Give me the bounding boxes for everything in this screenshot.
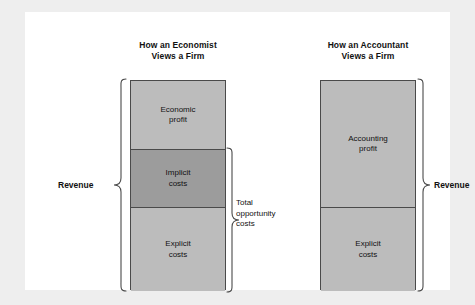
- economist-revenue-bar: Economic profit Implicit costs Explicit …: [130, 80, 226, 290]
- total-opportunity-costs-label: Total opportunity costs: [236, 198, 306, 230]
- segment-economic-profit: Economic profit: [131, 81, 225, 150]
- segment-explicit-costs-economist: Explicit costs: [131, 208, 225, 291]
- segment-accounting-profit: Accounting profit: [321, 81, 415, 208]
- revenue-brace-left-icon: [113, 78, 127, 292]
- economist-diagram-title: How an Economist Views a Firm: [103, 40, 253, 62]
- figure-panel: How an Economist Views a Firm Economic p…: [25, 12, 450, 290]
- figure-root: How an Economist Views a Firm Economic p…: [0, 0, 475, 305]
- accountant-diagram-title: How an Accountant Views a Firm: [293, 40, 443, 62]
- segment-implicit-costs: Implicit costs: [131, 150, 225, 208]
- accountant-revenue-bar: Accounting profit Explicit costs: [320, 80, 416, 290]
- revenue-brace-right-icon: [417, 78, 431, 292]
- revenue-label-right: Revenue: [434, 180, 469, 190]
- revenue-label-left: Revenue: [58, 180, 93, 190]
- segment-explicit-costs-accountant: Explicit costs: [321, 208, 415, 291]
